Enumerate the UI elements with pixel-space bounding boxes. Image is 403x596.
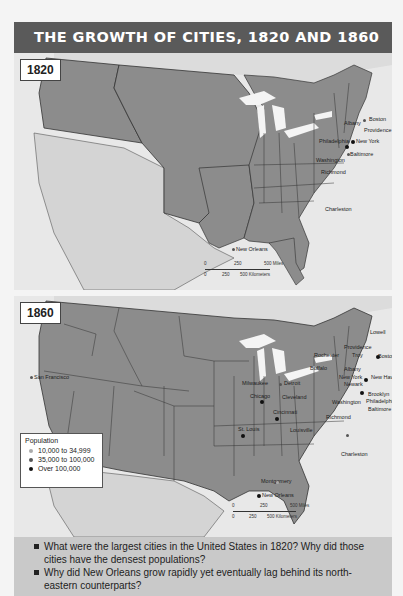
- city-label: Philadelphia: [319, 138, 349, 144]
- city-label: New Orleans: [236, 246, 268, 252]
- map-scale-1860: 0 250 500 Miles 0 250 500 Kilometers: [232, 503, 342, 528]
- city-label: Chicago: [250, 393, 270, 399]
- legend-dot-small-icon: [29, 449, 33, 453]
- city-dot: [30, 376, 33, 379]
- city-label: Buffalo: [310, 365, 327, 371]
- legend-title: Population: [25, 437, 98, 444]
- map-figure: THE GROWTH OF CITIES, 1820 AND 1860: [14, 22, 392, 596]
- city-label: Richmond: [321, 169, 346, 175]
- city-label: New York: [356, 138, 379, 144]
- city-label: Baltimore: [368, 406, 391, 412]
- discussion-questions: What were the largest cities in the Unit…: [14, 537, 392, 596]
- city-dot: [347, 153, 350, 156]
- city-dot: [351, 140, 355, 144]
- city-dot: [232, 248, 235, 251]
- legend-dot-large-icon: [29, 467, 33, 471]
- city-label: Lowell: [370, 329, 386, 335]
- city-label: Newark: [344, 381, 363, 387]
- year-label-1860: 1860: [20, 302, 61, 324]
- square-bullet-icon: [34, 570, 39, 575]
- legend-item: Over 100,000: [29, 465, 98, 472]
- question-item: What were the largest cities in the Unit…: [34, 541, 380, 566]
- square-bullet-icon: [34, 544, 39, 549]
- city-label: Boston: [369, 116, 386, 122]
- map-scale-1820: 0 250 500 Miles 0 250 500 Kilometers: [204, 261, 314, 286]
- city-label: Washington: [332, 399, 361, 405]
- city-dot: [276, 481, 279, 484]
- city-dot: [241, 434, 245, 438]
- city-label: Milwaukee: [242, 380, 268, 386]
- city-label: Cleveland: [282, 394, 306, 400]
- city-dot: [260, 400, 264, 404]
- city-label: Albany: [344, 366, 361, 372]
- city-dot: [363, 119, 366, 122]
- city-label: Albany: [344, 120, 361, 126]
- legend-item: 10,000 to 34,999: [29, 447, 98, 454]
- city-label: Providence: [344, 344, 372, 350]
- city-label: New Orleans: [262, 492, 294, 498]
- city-label: Troy: [352, 352, 363, 358]
- city-label: Baltimore: [350, 151, 373, 157]
- city-label: Charleston: [325, 206, 352, 212]
- city-label: Richmond: [326, 414, 351, 420]
- figure-title: THE GROWTH OF CITIES, 1820 AND 1860: [14, 22, 392, 53]
- city-label: Philadelphia: [366, 398, 392, 404]
- city-dot: [275, 417, 279, 421]
- question-item: Why did New Orleans grow rapidly yet eve…: [34, 567, 380, 592]
- city-label: New Haven: [371, 374, 392, 380]
- city-label: San Francisco: [34, 374, 69, 380]
- city-label: Louisville: [290, 427, 313, 433]
- city-label: Rochester: [314, 352, 339, 358]
- map-1820: 1820 Boston Providence Albany New York P…: [14, 53, 392, 290]
- city-dot: [364, 378, 368, 382]
- city-label: Providence: [364, 127, 392, 133]
- population-legend: Population 10,000 to 34,999 35,000 to 10…: [20, 433, 103, 488]
- city-label: Detroit: [284, 380, 300, 386]
- city-dot: [257, 494, 261, 498]
- city-label: Charleston: [341, 451, 368, 457]
- map-1860: 1860 San Francisco Milwaukee Detroit Chi…: [14, 296, 392, 537]
- city-label: Brooklyn: [368, 391, 389, 397]
- legend-item: 35,000 to 100,000: [29, 456, 98, 463]
- city-dot: [345, 145, 349, 149]
- city-dot: [346, 434, 349, 437]
- city-dot: [360, 391, 364, 395]
- legend-dot-medium-icon: [29, 458, 33, 462]
- city-dot: [376, 355, 380, 359]
- year-label-1820: 1820: [20, 59, 61, 81]
- city-label: Cincinnati: [273, 409, 297, 415]
- city-label: St. Louis: [238, 426, 259, 432]
- city-dot: [279, 383, 282, 386]
- city-label: New York: [339, 374, 362, 380]
- city-label: Washington: [316, 157, 345, 163]
- city-label: Boston: [378, 353, 392, 359]
